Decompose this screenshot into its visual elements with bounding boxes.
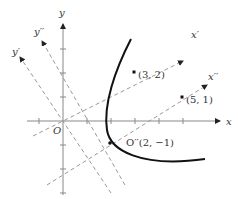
x-prime-label: x′ xyxy=(191,29,200,40)
x-axis-label: x xyxy=(226,116,232,127)
y-axis xyxy=(60,24,66,195)
origin-label: O xyxy=(53,125,61,136)
y-prime-label: y′ xyxy=(11,46,21,57)
x-double-prime-axis xyxy=(47,85,207,185)
point-o-double-prime-label: O′′(2, −1) xyxy=(126,137,174,148)
y-prime-axis xyxy=(20,57,111,193)
y-double-prime-label: y′′ xyxy=(33,26,45,37)
point-o-double-prime xyxy=(108,141,112,145)
y-double-prime-axis xyxy=(42,41,125,185)
point-3-2 xyxy=(133,71,136,74)
coordinate-diagram: y x O y′ y′′ x′ x′′ (3, 2) (5, 1) O′′(2,… xyxy=(0,0,238,199)
x-axis xyxy=(27,118,220,124)
x-double-prime-label: x′′ xyxy=(208,71,219,82)
y-axis-label: y xyxy=(58,7,65,18)
point-5-1 xyxy=(181,96,184,99)
point-3-2-label: (3, 2) xyxy=(138,69,165,80)
point-5-1-label: (5, 1) xyxy=(186,94,213,105)
